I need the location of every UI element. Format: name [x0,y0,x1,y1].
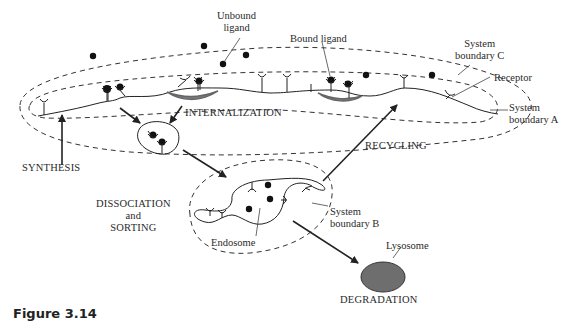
label-system-boundary-b-line2: boundary B [330,218,379,230]
label-bound-ligand: Bound ligand [290,33,347,45]
internalized-vesicle [138,122,179,155]
vesicle-ligands [148,131,167,154]
label-system-boundary-a: System boundary A [509,102,558,126]
vesicle-to-endosome-arrow [183,150,226,177]
label-unbound-ligand-line1: Unbound [217,10,256,22]
leader-bound-ligand [322,42,330,76]
leader-receptor [452,77,490,97]
system-boundary-c [20,47,531,155]
label-synthesis: SYNTHESIS [22,162,80,174]
endosome-free-ligands [246,182,273,212]
lysosome [361,262,405,292]
label-receptor: Receptor [494,72,532,84]
label-unbound-ligand-line2: ligand [217,22,256,34]
label-system-boundary-a-line2: boundary A [509,114,558,126]
label-system-boundary-b: System boundary B [330,206,379,230]
endosome [194,178,324,224]
label-dissociation-sorting: DISSOCIATION and SORTING [96,198,171,234]
internalization-arrow-right [170,106,182,123]
label-lysosome: Lysosome [386,240,429,252]
label-system-boundary-b-line1: System [330,206,379,218]
label-degradation: DEGRADATION [340,294,417,306]
label-system-boundary-c: System boundary C [455,38,504,62]
label-dissociation-line3: SORTING [96,222,171,234]
label-system-boundary-c-line1: System [455,38,504,50]
label-recycling: RECYCLING [365,140,427,152]
label-internalization: INTERNALIZATION [185,107,282,119]
leader-system-boundary-c [458,65,470,75]
label-system-boundary-c-line2: boundary C [455,50,504,62]
label-endosome: Endosome [211,237,255,249]
label-dissociation-line1: DISSOCIATION [96,198,171,210]
label-dissociation-line2: and [96,210,171,222]
leader-system-boundary-b [312,203,328,206]
coated-pit-left [167,91,218,99]
leader-endosome [256,208,260,236]
figure-caption: Figure 3.14 [13,306,97,321]
label-system-boundary-a-line1: System [509,102,558,114]
label-unbound-ligand: Unbound ligand [217,10,256,34]
